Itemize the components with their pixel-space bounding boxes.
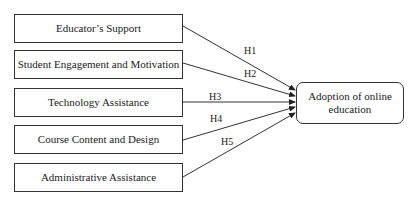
arrow-h4 bbox=[183, 107, 295, 140]
construct-administrative-assistance: Administrative Assistance bbox=[14, 163, 183, 192]
hypothesis-label-h5: H5 bbox=[221, 136, 233, 147]
construct-student-engagement: Student Engagement and Motivation bbox=[14, 50, 183, 79]
arrow-h5 bbox=[183, 113, 295, 177]
construct-educators-support: Educator’s Support bbox=[14, 14, 183, 43]
hypothesis-label-h2: H2 bbox=[244, 68, 256, 79]
hypothesis-label-h1: H1 bbox=[244, 45, 256, 56]
construct-label: Administrative Assistance bbox=[41, 171, 156, 184]
construct-label: Student Engagement and Motivation bbox=[18, 58, 180, 71]
hypothesis-label-h4: H4 bbox=[210, 113, 222, 124]
outcome-adoption-online-education: Adoption of online education bbox=[296, 82, 404, 124]
construct-label: Educator’s Support bbox=[56, 22, 141, 35]
construct-label: Course Content and Design bbox=[38, 133, 159, 146]
construct-course-content: Course Content and Design bbox=[14, 125, 183, 154]
arrow-h2 bbox=[183, 63, 295, 96]
construct-label: Technology Assistance bbox=[48, 96, 149, 109]
hypothesis-label-h3: H3 bbox=[209, 91, 221, 102]
construct-technology-assistance: Technology Assistance bbox=[14, 88, 183, 117]
arrow-h1 bbox=[183, 26, 295, 90]
outcome-label: Adoption of online education bbox=[301, 90, 399, 116]
